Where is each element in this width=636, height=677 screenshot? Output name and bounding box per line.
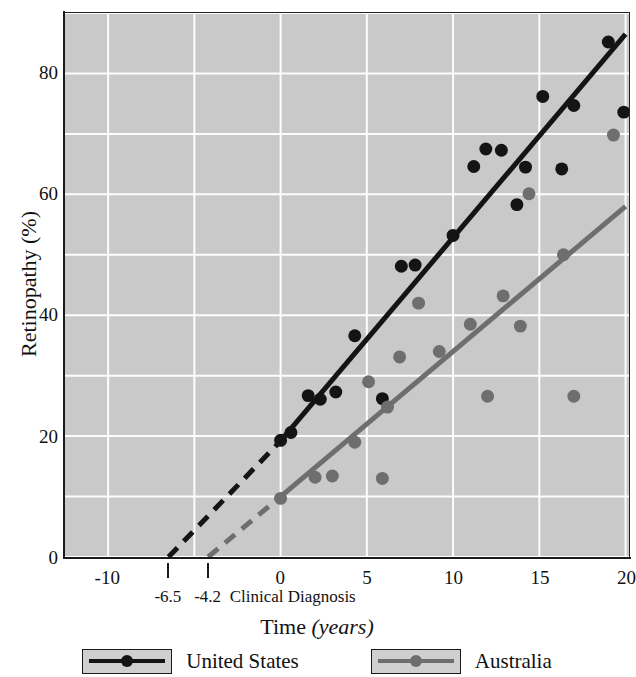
data-point: [567, 99, 580, 112]
annotation-tick-mark: [167, 563, 169, 578]
data-point: [302, 389, 315, 402]
data-point: [274, 434, 287, 447]
legend-marker-united-states: [121, 655, 133, 667]
data-point: [326, 470, 339, 483]
data-point: [497, 289, 510, 302]
data-point: [510, 198, 523, 211]
data-point: [348, 329, 361, 342]
data-point: [329, 386, 342, 399]
data-point: [412, 297, 425, 310]
data-point: [602, 36, 615, 49]
data-point: [467, 160, 480, 173]
x-axis-title: Time (years): [0, 614, 634, 640]
data-point: [536, 90, 549, 103]
data-point: [617, 106, 629, 119]
legend-swatch-united-states: [82, 649, 172, 674]
data-point: [557, 248, 570, 261]
x-tick-label: -10: [95, 568, 120, 587]
data-point: [522, 187, 535, 200]
clinical-diagnosis-annotation: Clinical Diagnosis: [230, 588, 356, 605]
x-tick-label: 10: [444, 568, 463, 587]
legend-label-australia: Australia: [475, 649, 552, 674]
data-point: [481, 390, 494, 403]
data-point: [567, 390, 580, 403]
data-point: [447, 229, 460, 242]
data-point: [274, 492, 287, 505]
annotation-tick-label: -4.2: [194, 588, 221, 605]
x-tick-label: 20: [617, 568, 636, 587]
annotation-tick-mark: [207, 563, 209, 578]
data-point: [555, 162, 568, 175]
data-point: [607, 129, 620, 142]
x-tick-label: 15: [530, 568, 549, 587]
legend-label-united-states: United States: [186, 649, 299, 674]
plot-svg: [65, 13, 629, 557]
data-point: [514, 320, 527, 333]
data-point: [393, 350, 406, 363]
data-point: [479, 143, 492, 156]
data-point: [362, 375, 375, 388]
data-point: [314, 393, 327, 406]
x-axis-title-unit: (years): [311, 614, 373, 639]
y-tick-label: 20: [14, 427, 58, 446]
points-australia: [274, 129, 620, 505]
trendline-dashed: [168, 441, 280, 557]
data-point: [433, 345, 446, 358]
data-point: [284, 426, 297, 439]
y-axis-title: Retinopathy (%): [16, 159, 42, 409]
data-point: [309, 471, 322, 484]
data-point: [395, 260, 408, 273]
x-tick-label: 0: [276, 568, 286, 587]
x-axis-title-main: Time: [260, 614, 306, 639]
legend-swatch-australia: [371, 649, 461, 674]
data-point: [409, 259, 422, 272]
x-tick-label: 5: [362, 568, 372, 587]
data-point: [495, 144, 508, 157]
y-tick-label: 0: [14, 548, 58, 567]
data-point: [519, 161, 532, 174]
data-point: [376, 472, 389, 485]
data-point: [381, 401, 394, 414]
data-point: [348, 436, 361, 449]
legend-marker-australia: [410, 655, 422, 667]
x-axis-line: [63, 557, 631, 559]
data-point: [464, 318, 477, 331]
legend-item-united-states[interactable]: United States: [82, 649, 299, 674]
chart-legend: United States Australia: [0, 645, 634, 677]
series-united-states: [168, 34, 625, 557]
annotation-tick-label: -6.5: [154, 588, 181, 605]
legend-item-australia[interactable]: Australia: [371, 649, 552, 674]
y-tick-label: 80: [14, 63, 58, 82]
plot-area: [64, 12, 630, 558]
y-axis-line: [63, 11, 65, 559]
